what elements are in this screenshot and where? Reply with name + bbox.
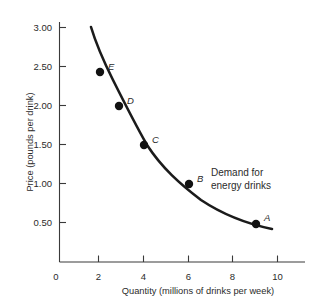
x-tick-label-10: 10 (272, 271, 283, 282)
data-point-E (96, 68, 104, 76)
demand-curve-path (91, 27, 272, 229)
x-tick-label-2: 2 (96, 271, 101, 282)
x-tick-label-8: 8 (230, 271, 235, 282)
y-tick-label-0p5: 0.50 (34, 217, 53, 228)
data-point-C (140, 141, 148, 149)
origin-label: 0 (53, 271, 58, 282)
point-label-A: A (263, 212, 270, 223)
point-label-B: B (197, 173, 204, 184)
data-point-D (115, 102, 123, 110)
data-point-B (185, 180, 193, 188)
point-label-C: C (152, 134, 159, 145)
y-tick-label-2p5: 2.50 (34, 61, 53, 72)
series-annotation-line1: Demand for (211, 167, 264, 178)
y-tick-label-2: 2.00 (34, 100, 53, 111)
chart-svg: 3.00 2.50 2.00 1.50 1.00 0.50 0 2 4 6 8 … (0, 0, 317, 301)
series-annotation-line2: energy drinks (211, 180, 271, 191)
y-tick-label-1p5: 1.50 (34, 139, 53, 150)
y-axis-title: Price (pounds per drink) (25, 92, 35, 191)
data-point-A (252, 220, 260, 228)
demand-curve-figure: 3.00 2.50 2.00 1.50 1.00 0.50 0 2 4 6 8 … (0, 0, 317, 301)
x-tick-label-6: 6 (186, 271, 191, 282)
point-label-E: E (108, 61, 115, 72)
y-tick-label-3: 3.00 (34, 22, 53, 33)
point-label-D: D (127, 95, 134, 106)
x-tick-label-4: 4 (141, 271, 146, 282)
y-tick-label-1: 1.00 (34, 178, 53, 189)
x-axis-title: Quantity (millions of drinks per week) (122, 286, 274, 296)
